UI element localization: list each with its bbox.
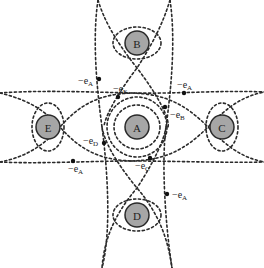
atom-e: E [36,115,60,139]
vector-dot-ee [116,95,120,99]
boundary-arc-c-bottom [132,92,264,161]
atom-a-label: A [133,122,141,134]
boundary-arc-vertical-right [164,0,173,268]
vector-dot-ec [148,156,152,160]
vector-label-ec: −eC [135,160,150,173]
atom-c-label: C [218,122,225,134]
atom-d-label: D [133,210,141,222]
lattice-diagram: A B C D E −eA −eE −eA −eB [0,0,264,268]
vector-label-ea-top: −eA [78,75,93,88]
atom-b-label: B [133,38,140,50]
vector-label-eb: −eB [170,109,185,122]
vector-label-ed: −eD [83,135,98,148]
vector-labels: −eA −eE −eA −eB −eD −eA −eC −eA [68,75,192,202]
atom-c: C [210,115,234,139]
vector-dot-eb [163,105,167,109]
boundary-arc-c-top [132,93,264,162]
atom-b: B [125,31,149,55]
boundary-arc-e-bottom [0,93,132,162]
atom-d: D [125,203,149,227]
boundary-arc-b-left [98,0,168,127]
atom-e-label: E [45,122,52,134]
boundary-arc-vertical-left [95,0,108,268]
boundary-arc-d-left [102,127,172,268]
vector-dot-ea-right [182,91,186,95]
vector-label-ea-right: −eA [177,79,192,92]
boundary-arc-e-top [0,93,132,161]
atoms: A B C D E [36,31,234,227]
vector-dot-ed [102,141,106,145]
vector-dot-ea-bottom [165,192,169,196]
atom-a: A [125,115,149,139]
vector-dot-ea-top [97,77,101,81]
vector-label-ea-left: −eA [68,163,83,176]
vector-label-ea-bottom: −eA [172,189,187,202]
